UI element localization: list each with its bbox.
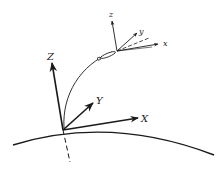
ground-z-label: Z	[46, 51, 55, 62]
earth-surface-curve	[13, 132, 214, 155]
vehicle	[97, 50, 116, 60]
vehicle-nozzle	[97, 57, 100, 60]
earth-center-dashed-line	[63, 130, 70, 162]
vehicle-body	[100, 50, 116, 59]
ground-frame: Z Y X	[46, 51, 149, 130]
ground-y-label: Y	[96, 95, 104, 106]
body-z-label: z	[108, 10, 114, 19]
ground-z-axis	[52, 63, 63, 130]
ground-x-label: X	[140, 113, 149, 124]
body-z-axis	[112, 21, 117, 51]
body-frame: z y x	[108, 10, 168, 51]
body-x-label: x	[163, 39, 168, 48]
body-y-label: y	[138, 27, 144, 36]
coordinate-frames-diagram: Z Y X z y x	[0, 0, 224, 176]
trajectory-curve	[64, 52, 112, 128]
